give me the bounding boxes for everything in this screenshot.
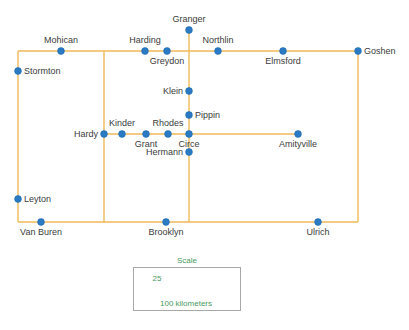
map-node-rhodes[interactable] xyxy=(165,131,172,138)
map-node-label-northlin: Northlin xyxy=(202,35,233,45)
map-node-label-leyton: Leyton xyxy=(24,194,51,204)
map-node-label-greydon: Greydon xyxy=(150,56,185,66)
map-node-northlin[interactable] xyxy=(215,48,222,55)
map-node-label-granger: Granger xyxy=(172,14,205,24)
map-node-hermann[interactable] xyxy=(186,149,193,156)
map-node-label-stormton: Stormton xyxy=(24,66,61,76)
map-node-van-buren[interactable] xyxy=(38,219,45,226)
map-node-leyton[interactable] xyxy=(15,196,22,203)
map-node-label-goshen: Goshen xyxy=(364,46,396,56)
scale-long-bar-label: 100 kilometers xyxy=(160,299,212,308)
map-node-ulrich[interactable] xyxy=(315,219,322,226)
map-node-granger[interactable] xyxy=(186,27,193,34)
scale-title: Scale xyxy=(177,256,197,265)
map-node-label-hermann: Hermann xyxy=(146,147,183,157)
map-node-brooklyn[interactable] xyxy=(163,219,170,226)
map-node-amityville[interactable] xyxy=(295,131,302,138)
map-node-label-hardy: Hardy xyxy=(74,129,98,139)
map-node-kinder[interactable] xyxy=(119,131,126,138)
scale-short-bar-label: 25 xyxy=(153,274,162,283)
map-node-goshen[interactable] xyxy=(355,48,362,55)
map-canvas: GrangerMohicanHardingGreydonNorthlinElms… xyxy=(0,0,409,330)
map-node-label-kinder: Kinder xyxy=(109,118,135,128)
map-node-mohican[interactable] xyxy=(58,48,65,55)
link-layer xyxy=(18,30,358,222)
map-node-elmsford[interactable] xyxy=(280,48,287,55)
map-node-label-rhodes: Rhodes xyxy=(152,118,183,128)
map-node-circe[interactable] xyxy=(186,131,193,138)
map-node-label-brooklyn: Brooklyn xyxy=(148,227,183,237)
map-node-label-elmsford: Elmsford xyxy=(265,56,301,66)
map-node-label-mohican: Mohican xyxy=(44,35,78,45)
map-node-harding[interactable] xyxy=(142,48,149,55)
map-node-pippin[interactable] xyxy=(186,112,193,119)
node-layer xyxy=(15,27,362,226)
map-node-label-harding: Harding xyxy=(129,35,161,45)
map-node-greydon[interactable] xyxy=(164,48,171,55)
map-node-label-pippin: Pippin xyxy=(195,110,220,120)
map-node-stormton[interactable] xyxy=(15,68,22,75)
map-node-label-klein: Klein xyxy=(163,86,183,96)
map-node-klein[interactable] xyxy=(186,88,193,95)
map-node-label-van-buren: Van Buren xyxy=(20,227,62,237)
map-node-hardy[interactable] xyxy=(101,131,108,138)
map-node-label-ulrich: Ulrich xyxy=(306,227,329,237)
map-node-grant[interactable] xyxy=(143,131,150,138)
map-node-label-amityville: Amityville xyxy=(279,139,317,149)
